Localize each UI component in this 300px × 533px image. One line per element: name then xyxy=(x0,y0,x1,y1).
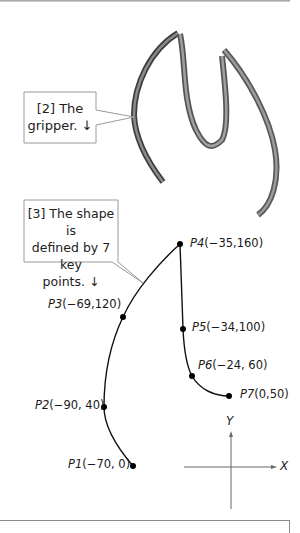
callout-shape-line1: [3] The shape is xyxy=(24,205,118,239)
axis-x-label: X xyxy=(280,459,288,473)
point-p6-dot xyxy=(189,373,195,379)
callout-gripper: [2] The gripper. ↓ xyxy=(24,100,96,134)
label-p6: P6(−24, 60) xyxy=(198,358,267,372)
point-p4-dot xyxy=(177,241,183,247)
callout-shape-line2: defined by 7 key xyxy=(24,239,118,273)
gripper-ribbon xyxy=(134,33,276,215)
key-point-dots xyxy=(101,241,232,469)
callout-shape-definition: [3] The shape is defined by 7 key points… xyxy=(24,205,118,290)
callout-gripper-line1: [2] The xyxy=(24,100,96,117)
axis-y-label: Y xyxy=(226,414,233,428)
point-p1-dot xyxy=(130,463,136,469)
bottom-divider xyxy=(0,520,290,521)
point-p5-dot xyxy=(180,326,186,332)
callout-shape-line3: points. ↓ xyxy=(24,273,118,290)
callout-gripper-line2: gripper. ↓ xyxy=(24,117,96,134)
label-p3: P3(−69,120) xyxy=(48,297,121,311)
label-p1: P1(−70, 0) xyxy=(68,457,130,471)
label-p7: P7(0,50) xyxy=(240,387,289,401)
shape-curve xyxy=(104,244,229,466)
point-p7-dot xyxy=(226,393,232,399)
label-p2: P2(−90, 40) xyxy=(35,398,104,412)
bottom-divider-vertical xyxy=(289,520,290,533)
label-p5: P5(−34,100) xyxy=(192,320,265,334)
xy-axes xyxy=(184,431,277,509)
label-p4: P4(−35,160) xyxy=(190,236,263,250)
point-p3-dot xyxy=(120,314,126,320)
